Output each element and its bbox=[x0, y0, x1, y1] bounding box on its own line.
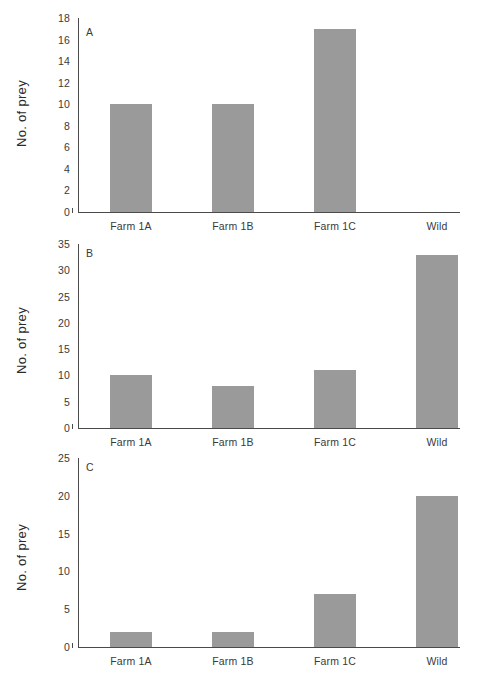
x-tick-label: Farm 1B bbox=[188, 655, 278, 667]
panel-b: No. of prey B 05101520253035 Farm 1AFarm… bbox=[0, 235, 484, 455]
x-tick-label: Farm 1C bbox=[290, 655, 380, 667]
bar bbox=[212, 386, 254, 428]
panel-a: No. of prey A 024681012141618 Farm 1AFar… bbox=[0, 0, 484, 240]
y-tick-label: 5 bbox=[42, 604, 70, 615]
y-tick-label: 4 bbox=[42, 164, 70, 175]
bar bbox=[416, 255, 458, 428]
y-tick-label: 18 bbox=[42, 13, 70, 24]
bar bbox=[416, 496, 458, 647]
y-tick-label: 20 bbox=[42, 318, 70, 329]
panel-b-x-axis bbox=[78, 428, 460, 429]
y-tick-label: 0 bbox=[42, 207, 70, 218]
x-tick-label: Farm 1A bbox=[86, 436, 176, 448]
panel-c-origin-tick bbox=[72, 643, 73, 648]
panel-a-y-axis-title: No. of prey bbox=[14, 69, 29, 159]
y-tick-label: 15 bbox=[42, 344, 70, 355]
y-tick-label: 20 bbox=[42, 491, 70, 502]
panel-a-y-axis bbox=[78, 18, 79, 213]
y-tick-label: 5 bbox=[42, 397, 70, 408]
panel-b-origin-tick bbox=[72, 424, 73, 429]
x-tick-label: Farm 1A bbox=[86, 655, 176, 667]
y-tick-label: 25 bbox=[42, 292, 70, 303]
x-tick-label: Farm 1A bbox=[86, 220, 176, 232]
x-tick-label: Farm 1C bbox=[290, 220, 380, 232]
panel-b-y-axis bbox=[78, 244, 79, 429]
y-tick-label: 16 bbox=[42, 35, 70, 46]
bar bbox=[314, 370, 356, 428]
y-tick-label: 14 bbox=[42, 56, 70, 67]
panel-c-y-axis bbox=[78, 458, 79, 648]
panel-a-x-axis bbox=[78, 212, 460, 213]
y-tick-label: 10 bbox=[42, 99, 70, 110]
panel-c-letter: C bbox=[86, 461, 94, 473]
y-tick-label: 10 bbox=[42, 370, 70, 381]
x-tick-label: Farm 1B bbox=[188, 220, 278, 232]
panel-c-y-axis-title: No. of prey bbox=[14, 513, 29, 603]
y-tick-label: 30 bbox=[42, 265, 70, 276]
y-tick-label: 0 bbox=[42, 642, 70, 653]
bar bbox=[110, 632, 152, 647]
y-tick-label: 10 bbox=[42, 566, 70, 577]
y-tick-label: 35 bbox=[42, 239, 70, 250]
panel-a-origin-tick bbox=[72, 208, 73, 213]
y-tick-label: 15 bbox=[42, 529, 70, 540]
bar bbox=[110, 375, 152, 428]
panel-c-x-axis bbox=[78, 647, 460, 648]
y-tick-label: 6 bbox=[42, 142, 70, 153]
x-tick-label: Farm 1C bbox=[290, 436, 380, 448]
y-tick-label: 8 bbox=[42, 121, 70, 132]
bar bbox=[212, 632, 254, 647]
y-tick-label: 2 bbox=[42, 185, 70, 196]
x-tick-label: Farm 1B bbox=[188, 436, 278, 448]
bar bbox=[212, 104, 254, 212]
panel-c: No. of prey C 0510152025 Farm 1AFarm 1BF… bbox=[0, 450, 484, 685]
figure-three-panel-bar-chart: No. of prey A 024681012141618 Farm 1AFar… bbox=[0, 0, 484, 685]
x-tick-label: Wild bbox=[392, 220, 482, 232]
panel-b-y-axis-title: No. of prey bbox=[14, 296, 29, 386]
y-tick-label: 12 bbox=[42, 78, 70, 89]
panel-b-letter: B bbox=[86, 247, 93, 259]
bar bbox=[314, 29, 356, 212]
bar bbox=[110, 104, 152, 212]
x-tick-label: Wild bbox=[392, 655, 482, 667]
y-tick-label: 0 bbox=[42, 423, 70, 434]
x-tick-label: Wild bbox=[392, 436, 482, 448]
panel-a-letter: A bbox=[86, 26, 93, 38]
y-tick-label: 25 bbox=[42, 453, 70, 464]
bar bbox=[314, 594, 356, 647]
